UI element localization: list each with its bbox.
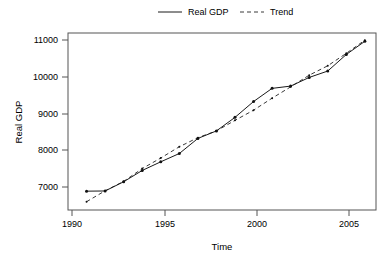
x-axis-title: Time [212,241,233,252]
plot-frame [68,33,376,210]
series-trend [87,40,365,202]
data-point-marker [271,87,274,90]
x-tick-label-2000: 2000 [247,219,267,229]
x-tick-label-1990: 1990 [62,219,82,229]
chart-figure: Real GDP Trend 11000 10000 9000 8000 700… [0,0,392,262]
data-point-marker [345,52,347,54]
x-tick-label-1995: 1995 [155,219,175,229]
data-point-marker [123,180,125,182]
trend-line-path [87,40,365,202]
data-point-marker [327,65,329,67]
data-point-markers [85,39,366,203]
data-point-marker [290,86,292,88]
data-point-marker [86,201,88,203]
real-gdp-line-path [87,41,365,191]
data-point-marker [233,116,236,119]
data-point-marker [326,70,329,73]
data-point-marker [252,100,255,103]
y-tick-label-8000: 8000 [38,145,58,155]
y-axis: 11000 10000 9000 8000 7000 [33,35,68,192]
series-real-gdp [87,41,365,191]
data-point-marker [215,130,217,132]
y-tick-label-9000: 9000 [38,109,58,119]
data-point-marker [271,97,273,99]
data-point-marker [197,137,199,139]
legend-label-real-gdp: Real GDP [188,7,229,17]
data-point-marker [104,190,106,192]
y-tick-label-11000: 11000 [34,35,58,45]
data-point-marker [159,160,162,163]
data-point-marker [141,168,143,170]
data-point-marker [85,190,88,193]
data-point-marker [308,76,311,79]
x-tick-label-2005: 2005 [339,219,359,229]
data-point-marker [308,74,310,76]
y-axis-title: Real GDP [13,101,24,144]
data-point-marker [178,152,181,155]
y-tick-label-10000: 10000 [33,72,58,82]
data-point-marker [160,157,162,159]
chart-legend: Real GDP Trend [158,7,293,17]
data-point-marker [253,109,255,111]
data-point-marker [364,39,366,41]
y-tick-label-7000: 7000 [38,182,58,192]
line-chart: Real GDP Trend 11000 10000 9000 8000 700… [0,0,392,262]
legend-label-trend: Trend [270,7,293,17]
data-point-marker [234,119,236,121]
data-point-marker [178,146,180,148]
x-axis: 1990 1995 2000 2005 [62,210,359,229]
